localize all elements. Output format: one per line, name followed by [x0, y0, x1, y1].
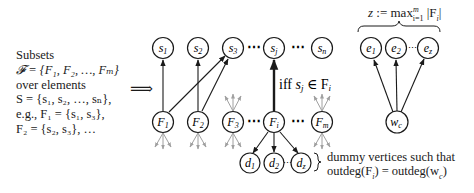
set-node-f2: F2 [188, 112, 209, 133]
edge-f1-s3 [169, 56, 225, 112]
dummy-note: dummy vertices such that outdeg(Fi) = ou… [327, 150, 455, 184]
dummy-node-d2: d2 [264, 153, 284, 173]
set-node-f1: F1 [153, 112, 174, 133]
extra-node-e1: e1 [361, 38, 382, 59]
ellipsis-f: ⋯ [247, 114, 261, 129]
set-node-fm: Fm [312, 112, 333, 133]
dummy-node-dz: dz [291, 153, 311, 173]
extra-node-e2: e2 [386, 38, 407, 59]
center-edges [374, 59, 424, 112]
element-node-sn: sn [312, 38, 333, 59]
center-node-wc: wc [386, 111, 408, 133]
dummy-node-d1: d1 [240, 153, 260, 173]
max-size-formula-text: z := maxmi=1 |Fi| [368, 3, 441, 26]
set-node-fi: Fi [264, 112, 285, 133]
ellipsis-s: ⋯ [247, 40, 261, 55]
ellipsis-e: ⋯ [408, 43, 417, 53]
dummy-brace-icon [314, 153, 321, 171]
implies-arrow-icon: ⟹ [130, 80, 153, 97]
ellipsis-d: ⋯ [283, 158, 292, 168]
extra-node-ez: ez [418, 38, 439, 59]
edge-condition-label: iff sj ∈ Fi [279, 77, 332, 93]
edge-f2-s3 [202, 59, 228, 111]
ellipsis-f2: ⋯ [291, 114, 305, 129]
element-node-s3: s3 [223, 38, 244, 59]
set-node-f3: F3 [223, 112, 244, 133]
element-node-s2: s2 [188, 38, 209, 59]
dummy-note-line2: outdeg(Fi) = outdeg(wc) [327, 164, 455, 184]
ellipsis-s2: ⋯ [291, 40, 305, 55]
element-node-s1: s1 [153, 38, 174, 59]
element-node-sj: sj [264, 38, 285, 59]
dummy-note-line1: dummy vertices such that [327, 150, 455, 164]
membership-edges [163, 56, 274, 112]
dummy-edges [253, 132, 298, 153]
